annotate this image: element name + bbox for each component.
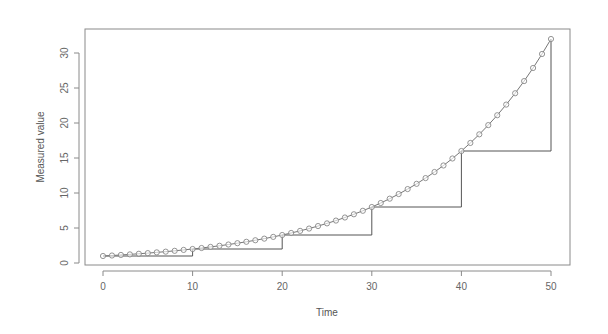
data-point [118, 252, 123, 257]
data-point [396, 191, 401, 196]
data-point [432, 169, 437, 174]
data-point [217, 243, 222, 248]
data-point [477, 132, 482, 137]
data-point [226, 242, 231, 247]
data-point [378, 200, 383, 205]
data-point [145, 251, 150, 256]
data-point [459, 148, 464, 153]
data-point [504, 102, 509, 107]
data-point [127, 252, 132, 257]
data-point [298, 228, 303, 233]
y-tick-label: 20 [59, 117, 70, 129]
data-point [495, 113, 500, 118]
data-point [405, 186, 410, 191]
data-point [262, 236, 267, 241]
data-point [253, 238, 258, 243]
y-tick-label: 30 [59, 47, 70, 59]
y-axis-title: Measured value [35, 111, 46, 183]
data-point [360, 208, 365, 213]
data-point [163, 249, 168, 254]
data-point [539, 51, 544, 56]
data-point [100, 253, 105, 258]
x-tick-label: 50 [545, 281, 557, 292]
data-point [468, 140, 473, 145]
x-tick-label: 40 [456, 281, 468, 292]
y-tick-label: 10 [59, 187, 70, 199]
data-point [271, 234, 276, 239]
x-axis: 01020304050 [100, 271, 557, 292]
y-axis: 051015202530 [59, 47, 79, 266]
data-point [441, 163, 446, 168]
curve-series [100, 36, 553, 258]
data-point [351, 212, 356, 217]
data-point [181, 247, 186, 252]
x-tick-label: 20 [277, 281, 289, 292]
x-tick-label: 30 [366, 281, 378, 292]
plot-frame [85, 29, 570, 265]
data-point [342, 215, 347, 220]
data-point [387, 196, 392, 201]
data-point [208, 244, 213, 249]
data-point [333, 218, 338, 223]
data-point [513, 91, 518, 96]
data-point [522, 78, 527, 83]
x-axis-title: Time [316, 307, 338, 318]
data-point [136, 251, 141, 256]
data-point [414, 181, 419, 186]
data-point [199, 245, 204, 250]
data-point [109, 253, 114, 258]
data-point [190, 246, 195, 251]
x-tick-label: 10 [187, 281, 199, 292]
data-point [154, 250, 159, 255]
data-point [369, 204, 374, 209]
x-tick-label: 0 [100, 281, 106, 292]
data-point [315, 223, 320, 228]
data-point [324, 221, 329, 226]
data-point [486, 123, 491, 128]
data-point [235, 241, 240, 246]
y-tick-label: 25 [59, 82, 70, 94]
data-point [450, 156, 455, 161]
data-point [306, 226, 311, 231]
y-tick-label: 15 [59, 152, 70, 164]
y-tick-label: 0 [59, 260, 70, 266]
data-point [244, 239, 249, 244]
data-point [172, 248, 177, 253]
data-point [423, 175, 428, 180]
data-point [548, 36, 553, 41]
chart-canvas: 01020304050 051015202530 Time Measured v… [0, 0, 608, 334]
data-point [289, 230, 294, 235]
data-point [530, 65, 535, 70]
y-tick-label: 5 [59, 225, 70, 231]
data-point [280, 232, 285, 237]
